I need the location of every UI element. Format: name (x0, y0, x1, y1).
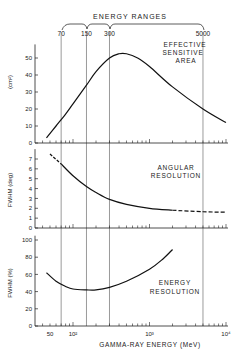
angular-resolution-curve (61, 164, 172, 210)
y-tick-label: 4 (29, 186, 33, 192)
gamma-ray-telescope-performance-chart: ENERGY RANGES 701503005000 0102030405001… (0, 0, 240, 354)
effective-area-curve (46, 53, 226, 138)
x-tick-label: 10⁴ (221, 331, 231, 337)
panel-title-text: AREA (176, 57, 197, 64)
x-axis-title: GAMMA-RAY ENERGY (MeV) (99, 341, 200, 349)
angular-resolution-curve-dashed-high (173, 210, 226, 212)
panel-title-text: EFFECTIVE (164, 41, 207, 48)
y-tick-label: 0 (29, 225, 33, 231)
y-tick-label: 60 (25, 272, 32, 278)
y-tick-label: 20 (25, 306, 32, 312)
y-tick-label: 20 (25, 106, 32, 112)
y-tick-label: 0 (29, 140, 33, 146)
energy-ranges-title: ENERGY RANGES (93, 13, 167, 20)
y-tick-label: 6 (29, 166, 33, 172)
y-tick-label: 80 (25, 254, 32, 260)
y-tick-label: 3 (29, 196, 33, 202)
panel-title-text: SENSITIVE (162, 49, 203, 56)
angular-resolution-curve-dashed-low (50, 154, 61, 164)
y-tick-label: 40 (25, 289, 32, 295)
y-tick-label: 10 (25, 123, 32, 129)
panel-title-text: RESOLUTION (151, 172, 201, 179)
y-axis-label-bottom: FWHM (%) (7, 268, 13, 298)
y-tick-label: 40 (25, 72, 32, 78)
y-tick-label: 50 (25, 55, 32, 61)
x-tick-label: 50 (47, 331, 54, 337)
panel-title-text: ENERGY (159, 279, 191, 286)
y-tick-label: 5 (29, 176, 33, 182)
x-tick-label: 10³ (145, 331, 154, 337)
y-tick-label: 0 (29, 323, 33, 329)
y-tick-label: 1 (29, 215, 33, 221)
panel-title-text: ANGULAR (157, 164, 194, 171)
panel-title-text: RESOLUTION (150, 288, 200, 295)
y-axis-label-middle: FWHM (deg) (7, 173, 13, 207)
y-tick-label: 100 (22, 237, 33, 243)
x-tick-label: 10² (69, 331, 78, 337)
y-tick-label: 7 (29, 156, 33, 162)
y-tick-label: 2 (29, 205, 33, 211)
y-tick-label: 30 (25, 89, 32, 95)
y-axis-label-top: (cm²) (7, 75, 13, 89)
